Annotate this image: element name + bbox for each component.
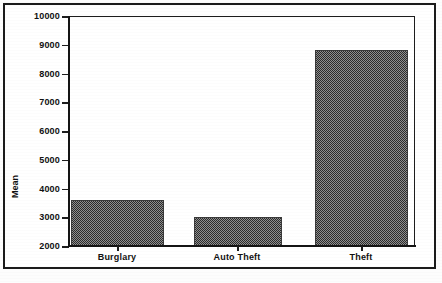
bar-chart-screenshot: 10000 9000 8000 7000 6000 5000 4000 3000 — [0, 0, 442, 283]
x-axis-label-burglary: Burglary — [98, 252, 137, 262]
x-axis-line — [68, 245, 416, 247]
y-axis-label-6000: 6000 — [4, 126, 60, 136]
y-axis-label-8000: 8000 — [4, 69, 60, 79]
y-axis-label-5000: 5000 — [4, 155, 60, 165]
y-axis-label-2000: 2000 — [4, 241, 60, 251]
y-axis-label-7000: 7000 — [4, 97, 60, 107]
plot-area — [68, 16, 415, 246]
bar-theft — [315, 50, 408, 246]
y-axis-title: Mean — [10, 175, 20, 198]
x-axis-tick-theft — [361, 246, 363, 251]
y-axis-label-10000: 10000 — [4, 11, 60, 21]
y-axis-label-3000: 3000 — [4, 212, 60, 222]
x-axis-label-theft: Theft — [350, 252, 373, 262]
y-axis-line — [68, 16, 70, 247]
bar-burglary — [71, 200, 164, 245]
x-axis-tick-auto-theft — [237, 246, 239, 251]
bar-auto-theft — [194, 217, 282, 245]
y-axis-label-9000: 9000 — [4, 40, 60, 50]
x-axis-tick-burglary — [117, 246, 119, 251]
x-axis-label-auto-theft: Auto Theft — [214, 252, 261, 262]
